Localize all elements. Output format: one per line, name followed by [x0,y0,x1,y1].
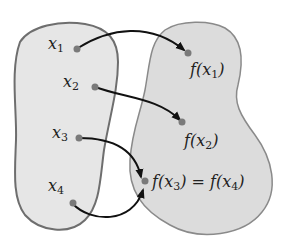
label-x4: x4 [48,178,64,196]
codomain-set-shape [130,22,272,234]
label-fx1: f(x1) [190,62,224,80]
label-x3: x3 [52,125,68,143]
point-x1 [74,46,81,53]
point-x2 [92,84,99,91]
label-fx2: f(x2) [184,133,218,151]
label-x2: x2 [63,74,79,92]
diagram-canvas [0,0,283,247]
point-fx1 [185,50,192,57]
label-fx3-equals-fx4: f(x3) = f(x4) [152,174,244,192]
point-fx2 [179,119,186,126]
point-x3 [76,135,83,142]
point-fx3-fx4 [142,178,149,185]
label-x1: x1 [48,36,64,54]
point-x4 [70,200,77,207]
function-mapping-diagram: x1 x2 x3 x4 f(x1) f(x2) f(x3) = f(x4) [0,0,283,247]
